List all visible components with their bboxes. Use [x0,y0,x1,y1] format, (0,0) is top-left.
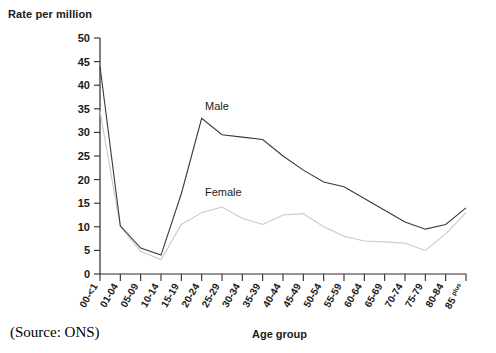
chart-plot-area: 0510152025303540455000-<101-0405-0910-14… [0,0,496,353]
svg-text:20-24: 20-24 [179,281,202,309]
x-tick-label: 45-49 [281,281,304,309]
svg-text:40-44: 40-44 [260,281,283,309]
y-tick-label: 45 [78,56,90,68]
x-tick-label: 30-34 [220,281,243,309]
x-tick-label: 70-74 [382,281,405,309]
series-label-female: Female [205,186,242,198]
line-chart-figure: Rate per million 0510152025303540455000-… [0,0,496,353]
svg-text:60-64: 60-64 [342,281,365,309]
x-tick-label: 01-04 [98,281,121,309]
y-tick-label: 35 [78,103,90,115]
svg-text:35-39: 35-39 [240,281,263,309]
x-tick-label: 10-14 [138,281,161,309]
svg-text:45-49: 45-49 [281,281,304,309]
x-tick-label: 25-29 [199,281,222,309]
y-tick-label: 10 [78,221,90,233]
svg-text:05-09: 05-09 [118,281,141,309]
x-axis-title: Age group [252,328,307,340]
x-tick-label: 40-44 [260,281,283,309]
svg-text:30-34: 30-34 [220,281,243,309]
svg-text:75-79: 75-79 [403,281,426,309]
x-tick-label: 55-59 [321,281,344,309]
x-tick-label: 35-39 [240,281,263,309]
y-tick-label: 40 [78,79,90,91]
x-tick-label: 00-<1 [77,281,100,309]
y-axis-title: Rate per million [8,8,92,20]
x-tick-label: 20-24 [179,281,202,309]
x-tick-label: 50-54 [301,281,324,309]
y-tick-label: 15 [78,197,90,209]
svg-text:65-69: 65-69 [362,281,385,309]
x-tick-label: 15-19 [159,281,182,309]
series-label-male: Male [205,100,229,112]
x-tick-label: 60-64 [342,281,365,309]
y-tick-label: 30 [78,126,90,138]
y-tick-label: 25 [78,150,90,162]
svg-text:15-19: 15-19 [159,281,182,309]
x-tick-label: 65-69 [362,281,385,309]
x-tick-label: 85 plus [443,281,466,310]
svg-text:25-29: 25-29 [199,281,222,309]
svg-text:55-59: 55-59 [321,281,344,309]
y-tick-label: 5 [84,244,90,256]
y-tick-label: 0 [84,268,90,280]
source-note: (Source: ONS) [10,324,100,341]
series-line-male [100,66,466,255]
svg-text:10-14: 10-14 [138,281,161,309]
svg-text:01-04: 01-04 [98,281,121,309]
svg-text:00-<1: 00-<1 [77,281,100,309]
y-tick-label: 50 [78,32,90,44]
series-line-female [100,111,466,260]
x-tick-label: 75-79 [403,281,426,309]
svg-text:70-74: 70-74 [382,281,405,309]
y-tick-label: 20 [78,174,90,186]
svg-text:85 plus: 85 plus [443,281,466,310]
svg-text:50-54: 50-54 [301,281,324,309]
x-tick-label: 05-09 [118,281,141,309]
